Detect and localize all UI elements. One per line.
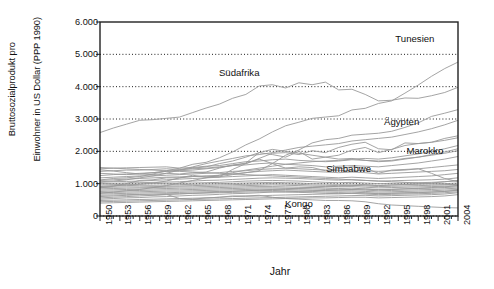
series-label-sdafrika: Südafrika <box>219 66 260 77</box>
x-tick-label: 1986 <box>342 205 352 225</box>
series-label-kongo: Kongo <box>285 197 313 208</box>
x-tick-label: 2004 <box>462 205 472 225</box>
x-tick-label: 1995 <box>402 205 412 225</box>
chart-figure: Bruttosozialprodukt pro Einwohner in US … <box>0 0 494 289</box>
x-tick-label: 1965 <box>203 205 213 225</box>
y-axis-label-line1: Bruttosozialprodukt pro <box>5 0 18 189</box>
series-label-tunesien: Tunesien <box>395 33 434 44</box>
y-axis-label: Bruttosozialprodukt pro Einwohner in US … <box>0 0 55 189</box>
x-tick-label: 1989 <box>362 205 372 225</box>
x-tick-label: 1983 <box>322 205 332 225</box>
y-tick-label: 2.000 <box>60 146 98 156</box>
x-axis-label: Jahr <box>100 265 460 277</box>
x-tick-label: 1971 <box>243 205 253 225</box>
y-tick-label: 3.000 <box>60 114 98 124</box>
y-axis-tick-labels: 01.0002.0003.0004.0005.0006.000 <box>56 0 98 289</box>
series-label-gypten: Ägypten <box>384 116 419 127</box>
y-tick-label: 4.000 <box>60 82 98 92</box>
y-tick-label: 6.000 <box>60 17 98 27</box>
x-tick-label: 1953 <box>123 205 133 225</box>
y-axis-label-line2: Einwohner in US Dollar (PPP 1990) <box>30 0 43 189</box>
x-tick-label: 1959 <box>163 205 173 225</box>
x-tick-label: 1974 <box>263 205 273 225</box>
x-tick-label: 1968 <box>223 205 233 225</box>
x-tick-label: 1962 <box>183 205 193 225</box>
x-tick-label: 1998 <box>422 205 432 225</box>
y-tick-label: 1.000 <box>60 179 98 189</box>
x-tick-label: 1956 <box>143 205 153 225</box>
series-label-simbabwe: Simbabwe <box>326 163 371 174</box>
y-tick-label: 5.000 <box>60 49 98 59</box>
y-tick-label: 0 <box>60 211 98 221</box>
x-tick-label: 2001 <box>442 205 452 225</box>
x-tick-label: 1950 <box>104 205 114 225</box>
series-label-marokko: Marokko <box>406 145 443 156</box>
x-tick-label: 1992 <box>382 205 392 225</box>
